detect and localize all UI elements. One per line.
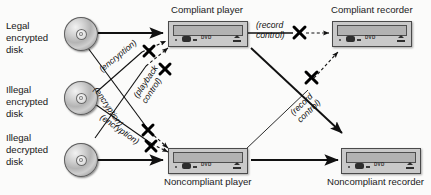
drive-logo-text: DVD [201,162,212,167]
led-icon [339,39,341,41]
eject-icon[interactable] [397,35,405,43]
drive-front-panel: DVD [346,162,416,171]
eject-icon[interactable] [233,35,241,43]
drive-slot-icon [357,39,361,41]
source-label-illegal-decrypted-disk: Illegal decrypted disk [6,132,62,168]
dvd-drive-icon-compliant-recorder[interactable]: DVD [332,21,412,47]
drive-logo-text: DVD [201,35,212,40]
device-label-compliant-player: Compliant player [171,4,243,16]
dvd-drive-icon-noncompliant-recorder[interactable]: DVD [341,148,421,174]
drive-front-panel: DVD [173,162,243,171]
drive-logo-text: DVD [365,35,376,40]
drive-front-panel: DVD [337,35,407,44]
device-label-noncompliant-recorder: Noncompliant recorder [327,176,424,188]
dvd-drive-icon-noncompliant-player[interactable]: DVD [168,148,248,174]
device-label-compliant-recorder: Compliant recorder [331,4,413,16]
source-label-legal-encrypted-disk: Legal encrypted disk [6,20,62,56]
drive-slot-icon [366,166,370,168]
optical-disc-icon-legal-encrypted[interactable] [64,17,98,51]
drive-button-icon[interactable] [355,163,364,169]
drive-button-icon[interactable] [346,36,355,42]
drive-slot-icon [193,166,197,168]
eject-icon[interactable] [233,162,241,170]
drive-button-icon[interactable] [182,163,191,169]
x-mark-noncompliant-player-to-compliant-recorder [306,72,317,83]
drive-front-panel: DVD [173,35,243,44]
edge-label-line1: (record [256,20,285,30]
eject-icon[interactable] [406,162,414,170]
x-mark-legal-to-noncompliant-player [143,125,153,135]
x-mark-illegal-enc-to-noncompliant-player [146,141,156,151]
source-label-illegal-encrypted-disk: Illegal encrypted disk [6,84,62,120]
label-line: Illegal decrypted disk [6,132,48,167]
led-icon [175,39,177,41]
led-icon [175,166,177,168]
optical-disc-icon-illegal-encrypted[interactable] [64,81,98,115]
device-label-noncompliant-player: Noncompliant player [164,176,251,188]
x-mark-illegal-enc-to-compliant-player [144,46,154,56]
dvd-drive-icon-compliant-player[interactable]: DVD [168,21,248,47]
edge-label-line2: control) [256,30,285,40]
drive-logo-text: DVD [374,162,385,167]
label-line: Illegal encrypted disk [6,84,48,119]
optical-disc-icon-illegal-decrypted[interactable] [64,143,98,177]
drive-button-icon[interactable] [182,36,191,42]
edge-label-record-control-horizontal: (record control) [256,20,285,40]
led-icon [348,166,350,168]
label-line: Legal encrypted disk [6,20,48,55]
x-mark-compliant-player-to-compliant-recorder [294,27,305,38]
diagram-canvas: Legal encrypted disk Illegal encrypted d… [0,0,431,195]
drive-slot-icon [193,39,197,41]
